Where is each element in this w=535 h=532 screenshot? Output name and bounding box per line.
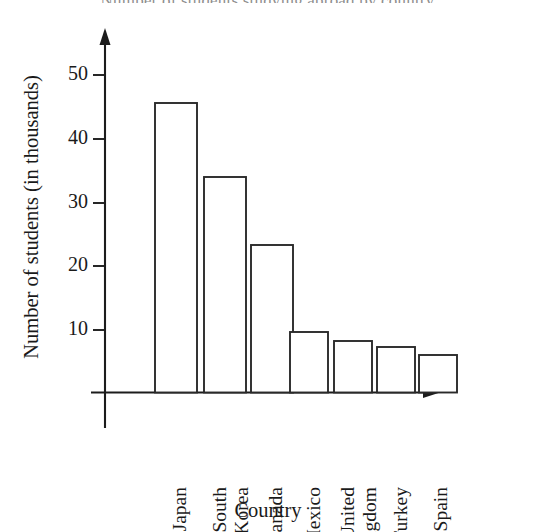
y-tick-labels: 50 40 30 20 10 [68, 62, 88, 339]
category-label-kingdom: Kingdom [359, 487, 380, 532]
bar-turkey[interactable] [377, 347, 415, 393]
bar-south-korea[interactable] [204, 177, 246, 393]
category-label-mexico: Mexico [303, 487, 324, 532]
y-tick-label-30: 30 [68, 190, 88, 212]
category-label-united: United [337, 487, 358, 532]
y-tick-label-40: 40 [68, 126, 88, 148]
category-label-south: South [209, 487, 230, 532]
bar-mexico[interactable] [290, 332, 328, 393]
chart-canvas: 50 40 30 20 10 Japan South Korea Canada … [0, 0, 535, 532]
category-label-japan: Japan [169, 487, 190, 532]
bar-japan[interactable] [155, 103, 197, 393]
y-axis-arrowhead-icon [100, 28, 111, 45]
y-axis-title: Number of students (in thousands) [20, 75, 43, 359]
y-axis [100, 28, 111, 428]
bar-series [155, 103, 457, 393]
y-tick-label-10: 10 [68, 317, 88, 339]
category-label-turkey: Turkey [390, 487, 411, 532]
category-labels: Japan South Korea Canada Mexico United K… [169, 487, 451, 532]
bar-spain[interactable] [419, 355, 457, 393]
x-axis-title: Country [234, 499, 302, 522]
bar-united-kingdom[interactable] [334, 341, 372, 393]
y-tick-label-20: 20 [68, 253, 88, 275]
bar-canada[interactable] [251, 245, 293, 393]
category-label-spain: Spain [430, 487, 451, 532]
y-tick-label-50: 50 [68, 62, 88, 84]
bar-chart-figure: Number of students studying abroad by co… [0, 0, 535, 532]
